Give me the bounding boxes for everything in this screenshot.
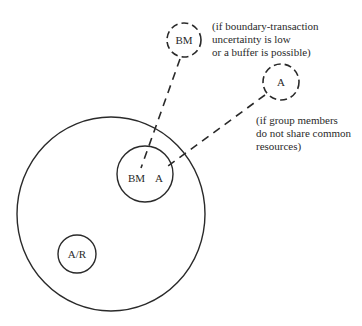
bm-note-line-1: (if boundary-transaction [212,20,319,33]
bm-note-line-3: or a buffer is possible) [212,46,319,59]
bm-connector-line [141,59,180,168]
bm-condition-note: (if boundary-transaction uncertainty is … [212,20,319,59]
a-connector-line [168,95,265,166]
a-condition-note: (if group members do not share common re… [256,114,351,153]
inner-a-label: A [155,172,163,184]
organization-circle [17,117,205,311]
a-note-line-3: resources) [256,140,351,153]
bm-note-line-2: uncertainty is low [212,33,319,46]
inner-bm-label: BM [128,172,145,184]
a-note-line-1: (if group members [256,114,351,127]
a-note-line-2: do not share common [256,127,351,140]
bm-outside-label: BM [175,34,192,46]
a-outside-label: A [277,76,285,88]
ar-label: A/R [68,248,87,260]
